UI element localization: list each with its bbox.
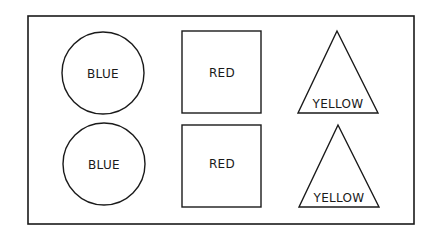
triangle-label: YELLOW: [313, 191, 365, 205]
shapes-diagram: BLUE RED YELLOW BLUE RED YELLOW: [0, 0, 435, 243]
row-2: BLUE RED YELLOW: [63, 123, 379, 207]
square-label: RED: [209, 66, 235, 80]
row-1: BLUE RED YELLOW: [62, 31, 378, 114]
square-label: RED: [209, 157, 235, 171]
circle-label: BLUE: [87, 67, 119, 81]
triangle-label: YELLOW: [312, 97, 364, 111]
circle-label: BLUE: [88, 158, 120, 172]
